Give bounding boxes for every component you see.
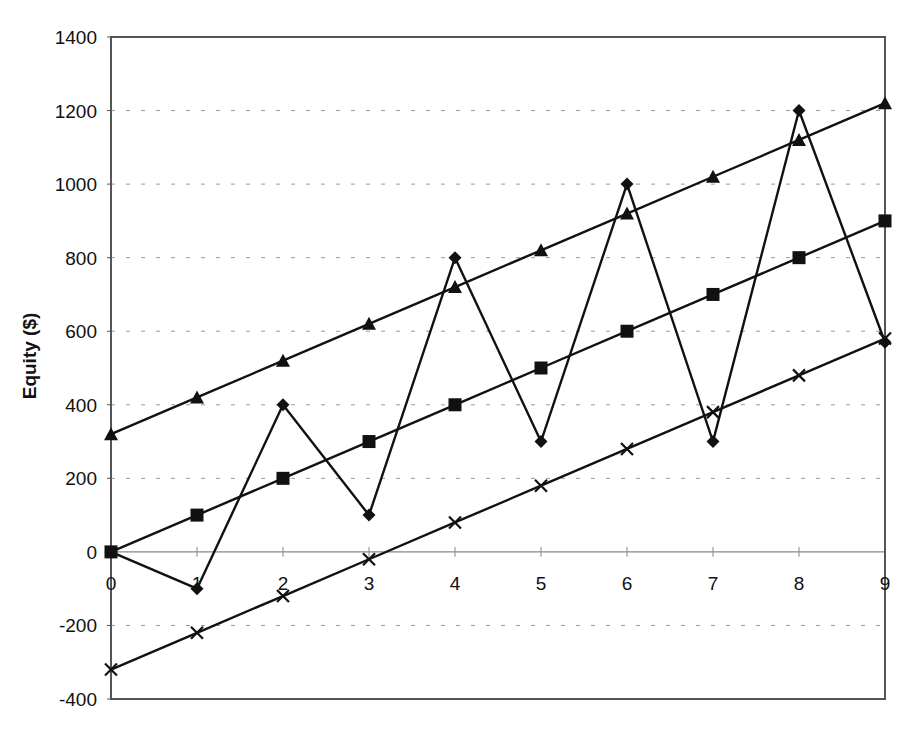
triangle-marker <box>190 390 204 403</box>
x-axis-line <box>111 547 885 557</box>
series-line <box>111 111 885 589</box>
horizontal-gridlines <box>111 111 885 626</box>
triangle-marker <box>620 207 634 220</box>
square-marker <box>449 398 462 411</box>
y-axis-tick-labels: -400-2000200400600800100012001400 <box>55 27 111 710</box>
square-marker <box>793 251 806 264</box>
square-marker <box>621 325 634 338</box>
triangle-marker <box>104 427 118 440</box>
y-tick-label: -200 <box>59 615 97 636</box>
series-line <box>111 339 885 670</box>
x-tick-label: 9 <box>880 573 891 594</box>
cross-marker <box>535 480 547 492</box>
x-tick-label: 7 <box>708 573 719 594</box>
diamond-marker <box>535 435 548 448</box>
cross-marker <box>793 369 805 381</box>
x-tick-label: 8 <box>794 573 805 594</box>
triangle-marker <box>362 317 376 330</box>
diamond-marker <box>707 435 720 448</box>
x-axis-tick-labels: 0123456789 <box>106 573 891 594</box>
y-tick-label: 1000 <box>55 174 97 195</box>
y-tick-label: 1200 <box>55 101 97 122</box>
y-tick-label: 600 <box>65 321 97 342</box>
square-marker <box>105 545 118 558</box>
plot-area-frame <box>111 37 885 699</box>
x-tick-label: 0 <box>106 573 117 594</box>
data-series <box>104 96 892 675</box>
triangle-marker <box>792 133 806 146</box>
y-tick-label: 1400 <box>55 27 97 48</box>
x-tick-label: 5 <box>536 573 547 594</box>
x-tick-label: 2 <box>278 573 289 594</box>
y-tick-label: 400 <box>65 395 97 416</box>
triangle-marker <box>534 243 548 256</box>
y-axis-title: Equity ($) <box>19 313 40 400</box>
cross-marker <box>707 406 719 418</box>
diamond-marker <box>793 104 806 117</box>
y-tick-label: 200 <box>65 468 97 489</box>
square-marker <box>191 509 204 522</box>
triangle-marker <box>276 354 290 367</box>
triangle-marker <box>448 280 462 293</box>
cross-marker <box>449 516 461 528</box>
diamond-marker <box>621 178 634 191</box>
x-tick-label: 6 <box>622 573 633 594</box>
x-tick-label: 4 <box>450 573 461 594</box>
diamond-marker <box>449 251 462 264</box>
series-diamond <box>105 104 892 595</box>
cross-marker <box>621 443 633 455</box>
series-line <box>111 221 885 552</box>
square-marker <box>707 288 720 301</box>
equity-line-chart: -400-2000200400600800100012001400 012345… <box>0 0 903 731</box>
square-marker <box>363 435 376 448</box>
square-marker <box>277 472 290 485</box>
y-tick-label: 0 <box>86 542 97 563</box>
cross-marker <box>191 627 203 639</box>
square-marker <box>879 214 892 227</box>
y-tick-label: -400 <box>59 689 97 710</box>
series-line <box>111 103 885 434</box>
x-tick-label: 3 <box>364 573 375 594</box>
triangle-marker <box>706 170 720 183</box>
triangle-marker <box>878 96 892 109</box>
y-tick-label: 800 <box>65 248 97 269</box>
square-marker <box>535 362 548 375</box>
